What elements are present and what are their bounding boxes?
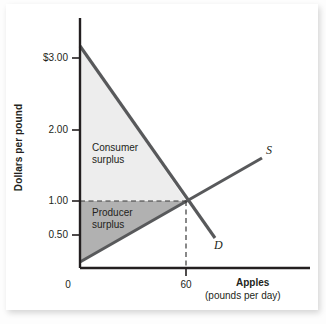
origin-label: 0 [48, 279, 88, 290]
demand-curve-label: D [214, 238, 223, 253]
y-tick-label-200: 2.00 [20, 124, 68, 135]
y-axis-title: Dollars per pound [13, 100, 24, 196]
x-tick-label-60: 60 [166, 279, 206, 290]
producer-surplus-label-line1: Producer [92, 207, 133, 219]
y-tick-label-300: $3.00 [20, 52, 68, 63]
supply-curve-label: S [266, 143, 272, 158]
producer-surplus-label-line2: surplus [92, 219, 124, 231]
supply-demand-chart [0, 0, 326, 324]
y-tick-label-050: 0.50 [20, 229, 68, 240]
consumer-surplus-label-line1: Consumer [92, 142, 138, 154]
y-tick-label-100: 1.00 [20, 195, 68, 206]
consumer-surplus-label-line2: surplus [92, 154, 124, 166]
x-axis-title: Apples [236, 277, 269, 288]
x-axis-subtitle: (pounds per day) [205, 290, 281, 301]
